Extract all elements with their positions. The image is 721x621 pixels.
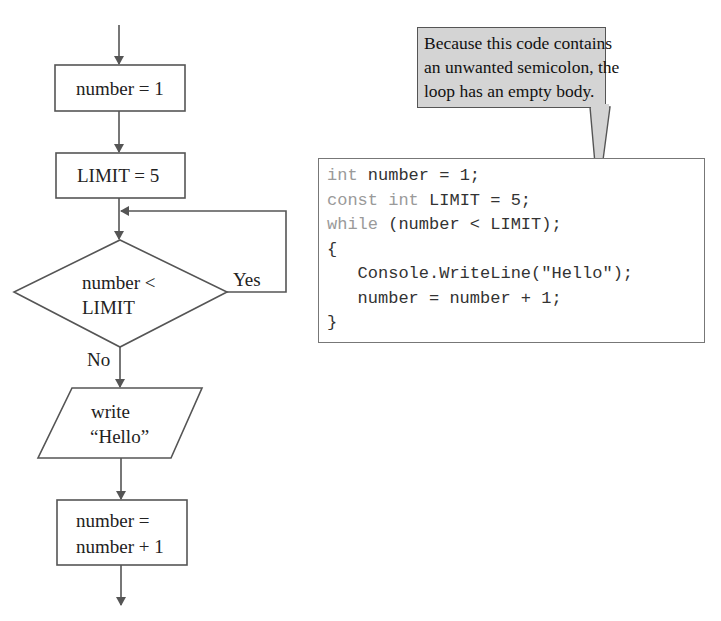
code-line: } [327,311,704,336]
decision-text-line1: number < [82,272,156,293]
decision-diamond [14,240,227,347]
code-line: number = number + 1; [327,287,704,312]
callout-line: loop has an empty body. [424,79,599,103]
code-line: Console.WriteLine("Hello"); [327,262,704,287]
box3-text-line1: number = [76,510,150,531]
code-line: { [327,238,704,263]
callout-box: Because this code contains an unwanted s… [417,27,606,108]
callout-line: an unwanted semicolon, the [424,55,599,79]
io-text-line2: “Hello” [90,426,149,447]
box1-text: number = 1 [76,78,164,99]
decision-text-line2: LIMIT [82,297,135,318]
code-line: while (number < LIMIT); [327,213,704,238]
yes-label: Yes [233,269,261,290]
box3-text-line2: number + 1 [76,536,164,557]
no-label: No [87,349,110,370]
code-listing: int number = 1; const int LIMIT = 5; whi… [318,158,705,343]
code-line: const int LIMIT = 5; [327,189,704,214]
box2-text: LIMIT = 5 [77,165,159,186]
io-parallelogram [38,388,202,458]
code-line: int number = 1; [327,164,704,189]
io-text-line1: write [91,401,130,422]
callout-line: Because this code contains [424,31,599,55]
